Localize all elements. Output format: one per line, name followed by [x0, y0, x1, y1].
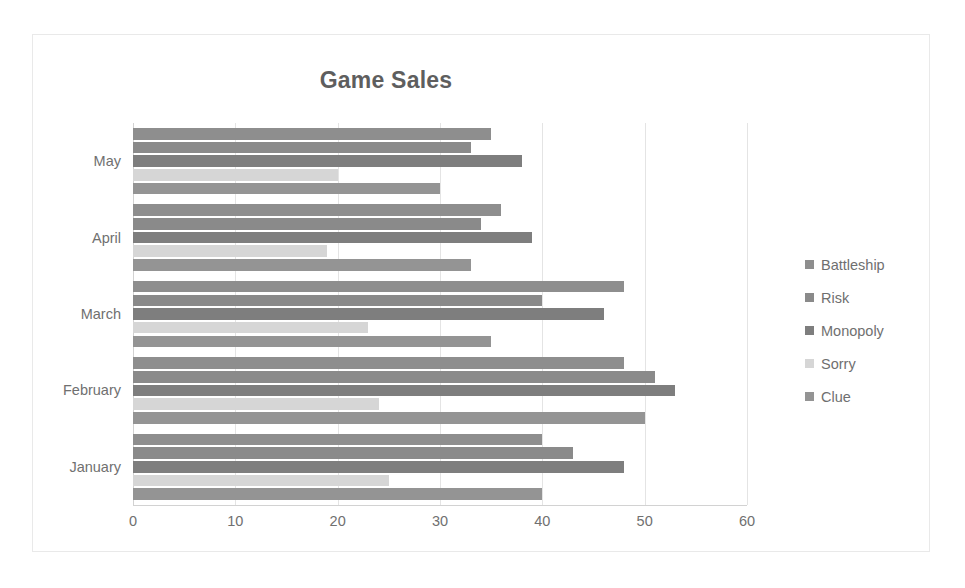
- x-tick-label-10: 10: [227, 513, 243, 529]
- bar-group-may: May: [133, 123, 747, 199]
- bar-march-sorry[interactable]: [133, 322, 368, 334]
- chart-frame: Game Sales MayAprilMarchFebruaryJanuary …: [32, 34, 930, 552]
- bar-group-april: April: [133, 199, 747, 275]
- chart-title-text: Game Sales: [320, 67, 452, 94]
- x-tick-label-40: 40: [534, 513, 550, 529]
- bar-january-sorry[interactable]: [133, 475, 389, 487]
- legend-item-risk[interactable]: Risk: [805, 281, 925, 314]
- legend-swatch-monopoly: [805, 326, 814, 335]
- bar-march-monopoly[interactable]: [133, 308, 604, 320]
- legend-item-sorry[interactable]: Sorry: [805, 347, 925, 380]
- bar-january-clue[interactable]: [133, 488, 542, 500]
- bar-february-clue[interactable]: [133, 412, 645, 424]
- bar-may-sorry[interactable]: [133, 169, 338, 181]
- bar-may-risk[interactable]: [133, 142, 471, 154]
- category-label-january: January: [1, 459, 121, 475]
- legend-item-clue[interactable]: Clue: [805, 380, 925, 413]
- legend-label-battleship: Battleship: [821, 257, 885, 273]
- legend-item-battleship[interactable]: Battleship: [805, 248, 925, 281]
- bar-march-risk[interactable]: [133, 295, 542, 307]
- bar-january-monopoly[interactable]: [133, 461, 624, 473]
- category-label-may: May: [1, 153, 121, 169]
- legend-label-clue: Clue: [821, 389, 851, 405]
- bar-february-sorry[interactable]: [133, 398, 379, 410]
- bar-march-battleship[interactable]: [133, 281, 624, 293]
- x-tick-label-60: 60: [739, 513, 755, 529]
- bar-may-monopoly[interactable]: [133, 155, 522, 167]
- bar-february-battleship[interactable]: [133, 357, 624, 369]
- category-label-march: March: [1, 306, 121, 322]
- bar-may-battleship[interactable]: [133, 128, 491, 140]
- bar-april-risk[interactable]: [133, 218, 481, 230]
- bar-group-february: February: [133, 352, 747, 428]
- x-tick-label-50: 50: [637, 513, 653, 529]
- category-label-february: February: [1, 382, 121, 398]
- x-tick-label-30: 30: [432, 513, 448, 529]
- chart-legend: BattleshipRiskMonopolySorryClue: [805, 248, 925, 413]
- bar-january-risk[interactable]: [133, 447, 573, 459]
- legend-swatch-risk: [805, 293, 814, 302]
- legend-item-monopoly[interactable]: Monopoly: [805, 314, 925, 347]
- bar-february-monopoly[interactable]: [133, 385, 675, 397]
- category-label-april: April: [1, 230, 121, 246]
- bar-group-march: March: [133, 276, 747, 352]
- legend-label-monopoly: Monopoly: [821, 323, 884, 339]
- bar-april-sorry[interactable]: [133, 245, 327, 257]
- x-tick-label-0: 0: [129, 513, 137, 529]
- legend-swatch-battleship: [805, 260, 814, 269]
- legend-label-risk: Risk: [821, 290, 849, 306]
- bar-march-clue[interactable]: [133, 336, 491, 348]
- plot-area: MayAprilMarchFebruaryJanuary: [133, 123, 747, 505]
- legend-label-sorry: Sorry: [821, 356, 856, 372]
- bar-april-clue[interactable]: [133, 259, 471, 271]
- bar-january-battleship[interactable]: [133, 434, 542, 446]
- bar-april-battleship[interactable]: [133, 204, 501, 216]
- chart-title: Game Sales: [33, 67, 929, 94]
- bar-may-clue[interactable]: [133, 183, 440, 195]
- bar-group-january: January: [133, 429, 747, 505]
- legend-swatch-sorry: [805, 359, 814, 368]
- bar-february-risk[interactable]: [133, 371, 655, 383]
- x-tick-label-20: 20: [330, 513, 346, 529]
- legend-swatch-clue: [805, 392, 814, 401]
- gridline-60: [747, 123, 748, 505]
- bar-april-monopoly[interactable]: [133, 232, 532, 244]
- x-axis-line: [133, 505, 747, 506]
